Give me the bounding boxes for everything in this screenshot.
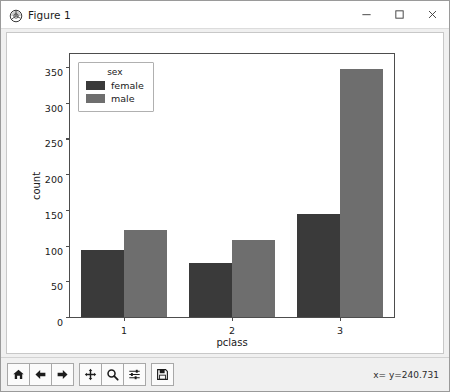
bar-female-3 [297,214,340,317]
window-controls [350,1,449,28]
forward-button[interactable] [51,363,74,386]
y-tick-label-350: 350 [45,66,70,77]
toolbar-buttons [7,363,173,386]
y-tick-label-50: 50 [51,281,70,292]
navigation-toolbar: x= y=240.731 [1,357,449,391]
bar-male-3 [340,69,383,317]
legend-label-female: female [111,80,144,91]
bar-female-2 [189,263,232,317]
coordinate-status: x= y=240.731 [373,370,439,380]
configure-subplots-button[interactable] [123,363,146,386]
legend-title: sex [86,67,144,77]
legend-item-female: female [86,80,144,91]
close-icon[interactable] [416,1,449,28]
legend-item-male: male [86,93,144,104]
y-tick-label-300: 300 [45,102,70,113]
maximize-icon[interactable] [383,1,416,28]
legend: sex female male [78,62,154,112]
matplotlib-icon [9,8,23,22]
home-button[interactable] [7,363,30,386]
save-button[interactable] [151,363,174,386]
legend-swatch-male [86,94,105,103]
title-bar: Figure 1 [1,1,449,29]
figure-canvas[interactable]: count pclass sex female male 12305010015… [6,32,444,354]
bar-male-1 [124,230,167,317]
y-tick-label-0: 0 [57,317,70,328]
plot-axes[interactable]: count pclass sex female male 12305010015… [69,53,395,318]
legend-label-male: male [111,93,135,104]
legend-swatch-female [86,81,105,90]
zoom-button[interactable] [101,363,124,386]
x-axis-label: pclass [216,337,247,348]
x-tick-label-1: 1 [121,317,127,336]
x-tick-label-2: 2 [229,317,235,336]
minimize-icon[interactable] [350,1,383,28]
x-tick-label-3: 3 [337,317,343,336]
bar-male-2 [232,240,275,317]
y-tick-label-150: 150 [45,209,70,220]
window-title: Figure 1 [28,9,71,21]
pan-button[interactable] [79,363,102,386]
y-tick-label-250: 250 [45,138,70,149]
y-tick-label-200: 200 [45,174,70,185]
y-tick-label-100: 100 [45,245,70,256]
figure-window: Figure 1 count pclass sex fe [0,0,450,392]
back-button[interactable] [29,363,52,386]
title-bar-left: Figure 1 [1,8,71,22]
y-axis-label: count [31,171,42,199]
bar-female-1 [81,250,124,317]
